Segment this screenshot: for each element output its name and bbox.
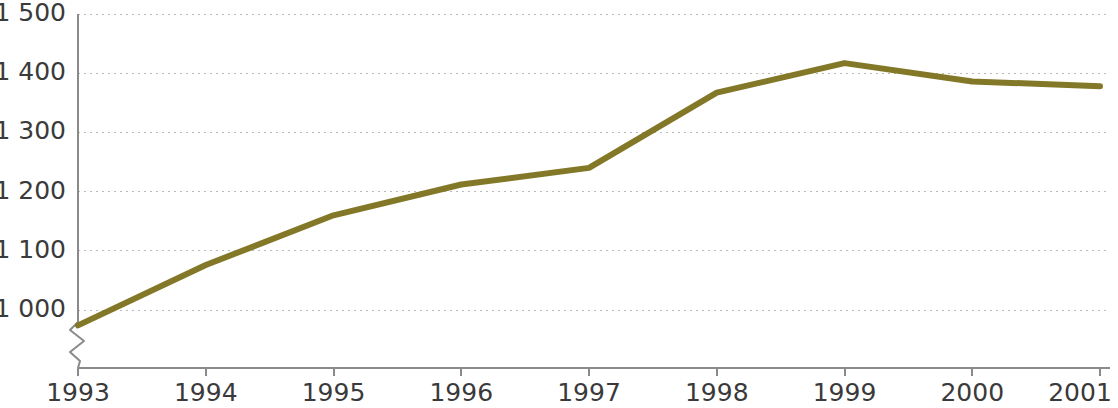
- line-chart: 1 0001 1001 2001 3001 4001 500 199319941…: [0, 0, 1118, 408]
- y-tick-label: 1 400: [0, 57, 66, 86]
- y-axis-line-group: [70, 14, 84, 368]
- y-tick-label: 1 200: [0, 176, 66, 205]
- y-tick-label: 1 000: [0, 294, 66, 323]
- x-tick-label: 1994: [174, 378, 238, 407]
- x-tick-label: 1998: [685, 378, 749, 407]
- y-tick-label: 1 300: [0, 116, 66, 145]
- y-tick-label: 1 500: [0, 0, 66, 27]
- series-group: [78, 63, 1100, 325]
- data-series-line: [78, 63, 1100, 325]
- x-tick-label: 1999: [813, 378, 877, 407]
- x-tick-label: 2001: [1048, 378, 1112, 407]
- y-tick-label: 1 100: [0, 235, 66, 264]
- y-axis-break-zigzag: [70, 322, 84, 368]
- x-tick-label: 1997: [557, 378, 621, 407]
- y-axis-tick-labels: 1 0001 1001 2001 3001 4001 500: [0, 0, 66, 323]
- chart-canvas: 1 0001 1001 2001 3001 4001 500 199319941…: [0, 0, 1118, 408]
- x-axis-tick-labels: 199319941995199619971998199920002001: [46, 378, 1112, 407]
- x-tick-label: 2000: [940, 378, 1004, 407]
- x-axis-tickmarks: [78, 368, 1100, 376]
- x-tick-label: 1993: [46, 378, 110, 407]
- x-tick-label: 1996: [429, 378, 493, 407]
- x-tick-label: 1995: [302, 378, 366, 407]
